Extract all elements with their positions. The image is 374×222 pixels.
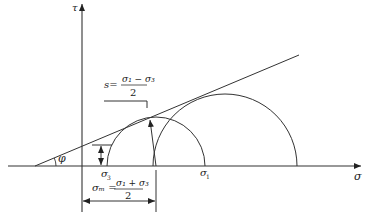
sigma-label: σ [354,170,362,183]
radius-formula-lhs: s= [104,79,118,90]
center-formula-lhs: σₘ = [92,182,117,193]
s-leader-line [104,101,147,108]
center-formula-denominator: 2 [125,190,131,201]
phi-arc [54,158,56,166]
phi-label: φ [58,152,66,165]
sigma3-subscript: 3 [107,174,111,181]
center-formula-numerator: σ₁ + σ₃ [116,178,149,188]
radius-formula-denominator: 2 [130,87,136,98]
mohr-circle-large [153,94,297,166]
diagram-svg: φ τ σ σ 3 σ 1 s= σ₁ − σ₃ 2 σₘ = σ₁ + σ₃ … [0,0,374,222]
mohr-circle-diagram: φ τ σ σ 3 σ 1 s= σ₁ − σ₃ 2 σₘ = σ₁ + σ₃ … [0,0,374,222]
radius-formula-numerator: σ₁ − σ₃ [122,74,155,84]
mohr-circle-small [107,117,205,166]
tau-label: τ [72,2,78,13]
sigma1-subscript: 1 [206,173,210,180]
strength-envelope-line [35,55,299,166]
